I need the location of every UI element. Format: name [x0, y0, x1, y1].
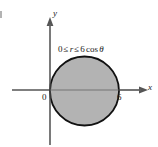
- annotation-function: cos: [85, 44, 98, 54]
- annotation-lower-bound: 0: [58, 44, 63, 54]
- annotation-first-operator: ≤: [63, 44, 70, 54]
- shaded-circle-region: [50, 57, 119, 126]
- tick-label-origin: 0: [42, 93, 47, 102]
- polar-region-figure: x y 0 6 0≤r≤6cosθ: [0, 0, 158, 147]
- annotation-angle: θ: [98, 44, 104, 54]
- region-inequality-annotation: 0≤r≤6cosθ: [58, 45, 104, 54]
- figure-canvas: [0, 0, 158, 147]
- y-axis-label: y: [53, 9, 57, 18]
- x-axis-label: x: [148, 83, 152, 92]
- tick-label-x-max: 6: [117, 93, 122, 102]
